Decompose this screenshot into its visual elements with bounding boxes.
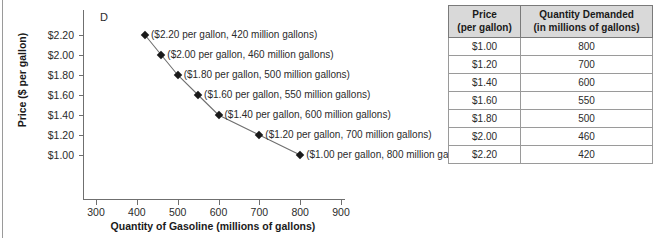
y-tick-$1.40 <box>79 115 84 116</box>
x-tick-600 <box>219 200 220 205</box>
table-row: $1.20700 <box>449 56 653 74</box>
table-row: $2.20420 <box>449 146 653 164</box>
y-tick-label-wrap: $1.40 <box>22 109 74 121</box>
table-row: $1.80500 <box>449 110 653 128</box>
x-tick-900 <box>341 200 342 205</box>
y-tick-label: $2.00 <box>26 49 74 61</box>
table-cell-quantity: 800 <box>521 38 653 56</box>
x-axis-title: Quantity of Gasoline (millions of gallon… <box>63 220 363 232</box>
table-cell-price: $1.60 <box>449 92 521 110</box>
x-tick-label: 300 <box>76 206 116 218</box>
x-tick-700 <box>259 200 260 205</box>
x-tick-label: 800 <box>280 206 320 218</box>
data-point-marker <box>194 91 202 99</box>
table-cell-quantity: 500 <box>521 110 653 128</box>
data-point-annotation: ($1.80 per gallon, 500 million gallons) <box>184 69 350 80</box>
table-header-price-line2: (per gallon) <box>457 22 511 33</box>
x-tick-300 <box>96 200 97 205</box>
table-cell-price: $2.00 <box>449 128 521 146</box>
y-tick-$2.20 <box>79 35 84 36</box>
table-cell-quantity: 600 <box>521 74 653 92</box>
table-cell-quantity: 700 <box>521 56 653 74</box>
y-tick-label-wrap: $1.80 <box>22 69 74 81</box>
x-tick-label: 900 <box>321 206 361 218</box>
table-row: $1.00800 <box>449 38 653 56</box>
table-row: $1.40600 <box>449 74 653 92</box>
table-cell-quantity: 460 <box>521 128 653 146</box>
table-header-quantity-line2: (in millions of gallons) <box>534 22 640 33</box>
data-point-annotation: ($1.20 per gallon, 700 million gallons) <box>265 129 431 140</box>
table-cell-price: $1.20 <box>449 56 521 74</box>
data-point-marker <box>296 151 304 159</box>
y-tick-label: $1.00 <box>26 149 74 161</box>
x-axis-line <box>83 199 345 200</box>
table-cell-price: $1.40 <box>449 74 521 92</box>
data-point-marker <box>157 51 165 59</box>
x-tick-800 <box>300 200 301 205</box>
demand-schedule-table: Price (per gallon) Quantity Demanded (in… <box>448 5 653 164</box>
table-header-price-line1: Price <box>472 9 496 20</box>
demand-curve-label: D <box>100 11 108 23</box>
y-axis-line <box>83 10 84 200</box>
data-point-annotation: ($2.20 per gallon, 420 million gallons) <box>151 29 317 40</box>
data-point-annotation: ($1.60 per gallon, 550 million gallons) <box>204 89 370 100</box>
y-tick-label-wrap: $2.00 <box>22 49 74 61</box>
table-header-row: Price (per gallon) Quantity Demanded (in… <box>449 6 653 38</box>
data-point-annotation: ($1.40 per gallon, 600 million gallons) <box>225 109 391 120</box>
table-row: $2.00460 <box>449 128 653 146</box>
x-tick-label: 500 <box>158 206 198 218</box>
y-tick-label: $2.20 <box>26 29 74 41</box>
table-row: $1.60550 <box>449 92 653 110</box>
data-point-marker <box>255 131 263 139</box>
y-tick-label: $1.40 <box>26 109 74 121</box>
table-body: $1.00800$1.20700$1.40600$1.60550$1.80500… <box>449 38 653 164</box>
table-cell-price: $1.80 <box>449 110 521 128</box>
x-tick-400 <box>137 200 138 205</box>
y-tick-$1.60 <box>79 95 84 96</box>
table-header-quantity-line1: Quantity Demanded <box>539 9 633 20</box>
x-tick-label: 700 <box>239 206 279 218</box>
demand-curve-chart: Price ($ per gallon) Quantity of Gasolin… <box>0 0 440 238</box>
table-cell-quantity: 550 <box>521 92 653 110</box>
y-tick-label: $1.80 <box>26 69 74 81</box>
table-cell-price: $2.20 <box>449 146 521 164</box>
table-header-quantity: Quantity Demanded (in millions of gallon… <box>521 6 653 38</box>
x-tick-label: 400 <box>117 206 157 218</box>
data-point-annotation: ($2.00 per gallon, 460 million gallons) <box>167 49 333 60</box>
y-tick-label-wrap: $2.20 <box>22 29 74 41</box>
x-tick-500 <box>178 200 179 205</box>
table-cell-quantity: 420 <box>521 146 653 164</box>
y-tick-$1.80 <box>79 75 84 76</box>
table-cell-price: $1.00 <box>449 38 521 56</box>
y-tick-$1.20 <box>79 135 84 136</box>
data-point-marker <box>173 71 181 79</box>
y-tick-label: $1.20 <box>26 129 74 141</box>
table-header-price: Price (per gallon) <box>449 6 521 38</box>
y-tick-label: $1.60 <box>26 89 74 101</box>
y-tick-label-wrap: $1.00 <box>22 149 74 161</box>
data-point-marker <box>141 31 149 39</box>
y-tick-label-wrap: $1.20 <box>22 129 74 141</box>
y-tick-label-wrap: $1.60 <box>22 89 74 101</box>
x-tick-label: 600 <box>199 206 239 218</box>
data-point-marker <box>214 111 222 119</box>
y-tick-$2.00 <box>79 55 84 56</box>
y-tick-$1.00 <box>79 155 84 156</box>
